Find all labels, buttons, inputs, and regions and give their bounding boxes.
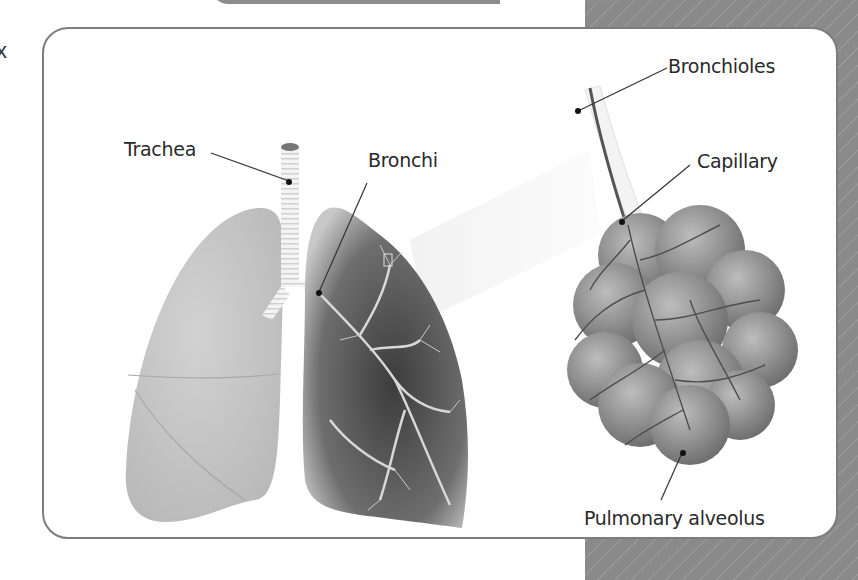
left-lung [126, 208, 283, 522]
alveoli-cluster [567, 86, 798, 465]
label-trachea: Trachea [124, 138, 196, 160]
label-pulmonary-alveolus: Pulmonary alveolus [584, 507, 765, 529]
magnification-beam [410, 150, 600, 320]
label-bronchi: Bronchi [368, 149, 438, 171]
label-bronchioles: Bronchioles [668, 55, 775, 77]
lungs-illustration [0, 0, 858, 580]
label-capillary: Capillary [697, 150, 778, 172]
